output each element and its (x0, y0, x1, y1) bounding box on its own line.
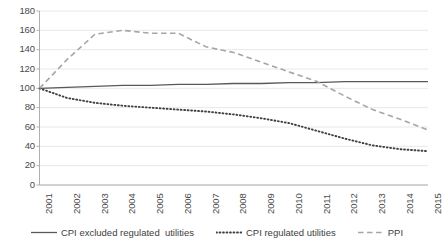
x-tick-label: 2008 (238, 193, 248, 214)
x-tick-label: 2010 (294, 193, 304, 214)
x-tick-label: 2006 (183, 193, 193, 214)
x-tick-label: 2014 (405, 193, 415, 214)
x-tick-label: 2011 (322, 194, 332, 214)
legend-label: CPI regulated utilities (246, 227, 336, 238)
x-tick-label: 2015 (433, 193, 443, 214)
legend-item[interactable]: CPI excluded regulated utilities (31, 227, 194, 238)
x-tick-label: 2009 (266, 193, 276, 214)
x-tick-label: 2013 (377, 193, 387, 214)
legend-swatch-solid-icon (31, 228, 57, 237)
x-tick-label: 2003 (100, 193, 110, 214)
x-tick-label: 2004 (127, 193, 137, 214)
legend-item[interactable]: CPI regulated utilities (216, 227, 336, 238)
legend-label: CPI excluded regulated utilities (61, 227, 194, 238)
x-tick-label: 2005 (155, 193, 165, 214)
legend-item[interactable]: PPI (358, 227, 403, 238)
x-tick-label: 2007 (211, 193, 221, 214)
legend-swatch-dashed-icon (358, 228, 384, 237)
x-tick-label: 2012 (349, 193, 359, 214)
legend-label: PPI (388, 227, 403, 238)
chart-legend: CPI excluded regulated utilitiesCPI regu… (0, 224, 434, 240)
x-tick-label: 2001 (44, 193, 54, 214)
legend-swatch-dotted-icon (216, 228, 242, 237)
x-tick-label: 2002 (72, 193, 82, 214)
